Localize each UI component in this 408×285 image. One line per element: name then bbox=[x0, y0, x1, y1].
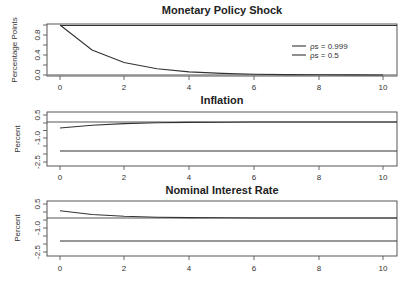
x-axis bbox=[60, 76, 383, 80]
svg-text:2: 2 bbox=[122, 173, 127, 182]
svg-text:8: 8 bbox=[317, 264, 322, 273]
y-tick-label: -1.0 bbox=[33, 131, 42, 145]
y-axis bbox=[43, 25, 47, 75]
panel-title: Monetary Policy Shock bbox=[162, 4, 283, 16]
y-axis bbox=[43, 115, 47, 162]
svg-text:0: 0 bbox=[58, 83, 63, 92]
svg-text:2: 2 bbox=[122, 83, 127, 92]
y-axis bbox=[43, 204, 47, 252]
svg-text:6: 6 bbox=[252, 83, 257, 92]
y-tick-label: -2.5 bbox=[33, 245, 42, 259]
legend-label: ρs = 0.999 bbox=[310, 42, 348, 51]
svg-text:0: 0 bbox=[58, 173, 63, 182]
y-tick-label: 0.5 bbox=[33, 198, 42, 210]
panel-title: Inflation bbox=[201, 94, 244, 106]
svg-text:10: 10 bbox=[379, 83, 388, 92]
svg-text:4: 4 bbox=[187, 83, 192, 92]
x-tick-labels: 0 2 4 6 8 10 bbox=[58, 264, 388, 273]
x-tick-labels: 0 2 4 6 8 10 bbox=[58, 173, 388, 182]
legend: ρs = 0.999 ρs = 0.5 bbox=[292, 42, 348, 60]
y-tick-label: 0.8 bbox=[33, 29, 42, 41]
svg-text:0: 0 bbox=[58, 264, 63, 273]
panel-inflation: Inflation 0.5 -1.0 -2.5 Percent 0 2 4 6 bbox=[13, 94, 397, 182]
y-axis-label: Percentage Points bbox=[10, 17, 19, 82]
chart-figure: Monetary Policy Shock 0.0 0.4 0.8 Percen… bbox=[0, 0, 408, 285]
plot-frame bbox=[47, 201, 397, 256]
svg-text:4: 4 bbox=[187, 264, 192, 273]
plot-frame bbox=[47, 112, 397, 166]
svg-text:8: 8 bbox=[317, 83, 322, 92]
legend-label: ρs = 0.5 bbox=[310, 51, 339, 60]
svg-text:4: 4 bbox=[187, 173, 192, 182]
svg-text:8: 8 bbox=[317, 173, 322, 182]
x-axis bbox=[60, 166, 383, 170]
y-tick-label: -1.0 bbox=[33, 221, 42, 235]
y-axis-label: Percent bbox=[13, 124, 22, 152]
y-tick-label: 0.5 bbox=[33, 109, 42, 121]
panel-monetary-policy-shock: Monetary Policy Shock 0.0 0.4 0.8 Percen… bbox=[10, 4, 397, 92]
x-axis bbox=[60, 256, 383, 260]
svg-text:10: 10 bbox=[379, 264, 388, 273]
panel-nominal-interest-rate: Nominal Interest Rate 0.5 -1.0 -2.5 Perc… bbox=[13, 184, 397, 273]
svg-text:2: 2 bbox=[122, 264, 127, 273]
series-rho-05 bbox=[60, 122, 397, 128]
y-axis-label: Percent bbox=[13, 213, 22, 241]
x-tick-labels: 0 2 4 6 8 10 bbox=[58, 83, 388, 92]
series-rho-05 bbox=[60, 211, 397, 218]
svg-text:6: 6 bbox=[252, 173, 257, 182]
y-tick-label: 0.4 bbox=[33, 49, 42, 61]
panel-title: Nominal Interest Rate bbox=[165, 184, 278, 196]
svg-text:10: 10 bbox=[379, 173, 388, 182]
y-tick-label: -2.5 bbox=[33, 155, 42, 169]
y-tick-label: 0.0 bbox=[33, 69, 42, 81]
svg-text:6: 6 bbox=[252, 264, 257, 273]
